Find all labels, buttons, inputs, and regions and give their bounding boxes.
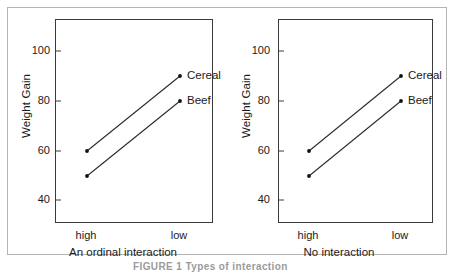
x-tick-label-low: low (370, 229, 430, 241)
series-line-cereal (87, 76, 180, 151)
data-point-cereal-high (85, 149, 89, 153)
x-tick-label-high: high (56, 229, 116, 241)
data-point-cereal-low (399, 74, 403, 78)
panel-caption-right: No interaction (232, 246, 446, 258)
series-label-cereal: Cereal (408, 69, 442, 81)
series-line-cereal (309, 76, 401, 151)
y-tick-label: 80 (240, 95, 270, 106)
y-tick-label: 60 (20, 145, 50, 156)
series-line-beef (309, 101, 401, 176)
y-tick-label: 80 (20, 95, 50, 106)
plot-area-left: Cereal Beef (55, 19, 213, 223)
plot-lines-left (56, 20, 214, 224)
y-tick-label: 40 (20, 194, 50, 205)
y-tick-labels-left: 100 80 60 40 (14, 8, 50, 256)
data-point-beef-high (307, 174, 311, 178)
x-tick-label-low: low (149, 229, 209, 241)
data-point-cereal-high (307, 149, 311, 153)
series-label-cereal: Cereal (187, 69, 221, 81)
chart-panel-no-interaction: Weight Gain 100 80 60 40 Cer (228, 8, 448, 256)
y-tick-label: 60 (240, 145, 270, 156)
chart-panel-ordinal-interaction: Weight Gain 100 80 60 40 (8, 8, 228, 256)
bottom-caption-strip: FIGURE 1 Types of interaction (0, 262, 455, 273)
series-label-beef: Beef (408, 94, 432, 106)
plot-area-right: Cereal Beef (278, 19, 433, 223)
data-point-beef-high (85, 174, 89, 178)
data-point-beef-low (399, 99, 403, 103)
y-tick-label: 100 (20, 45, 50, 56)
y-tick-label: 40 (240, 194, 270, 205)
data-point-cereal-low (178, 74, 182, 78)
y-tick-labels-right: 100 80 60 40 (234, 8, 270, 256)
data-point-beef-low (178, 99, 182, 103)
plot-lines-right (279, 20, 434, 224)
x-tick-label-high: high (278, 229, 338, 241)
series-line-beef (87, 101, 180, 176)
series-label-beef: Beef (187, 94, 211, 106)
figure-bottom-caption: FIGURE 1 Types of interaction (133, 262, 288, 272)
figure-frame: Weight Gain 100 80 60 40 (7, 7, 447, 255)
panel-caption-left: An ordinal interaction (16, 246, 230, 258)
y-tick-label: 100 (240, 45, 270, 56)
